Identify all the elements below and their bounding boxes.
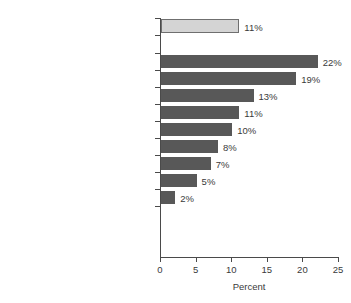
bar (161, 89, 254, 102)
x-axis-tick (231, 257, 232, 262)
y-axis-tick (155, 121, 161, 122)
y-axis-tick (155, 53, 161, 54)
bar (161, 72, 296, 85)
x-axis-tick (196, 257, 197, 262)
plot-area: All occupations11%Professional22%Associa… (0, 0, 351, 303)
bar-value-label: 5% (202, 175, 216, 186)
x-axis-tick (160, 257, 161, 262)
y-axis-tick (155, 138, 161, 139)
x-axis-tick-label: 15 (262, 264, 273, 275)
y-axis-tick (155, 155, 161, 156)
y-axis-tick (155, 104, 161, 105)
bar-value-label: 10% (237, 124, 256, 135)
y-axis-tick (155, 35, 161, 36)
bar (161, 106, 239, 119)
bar (161, 55, 318, 68)
bar (161, 140, 218, 153)
x-axis-title: Percent (233, 281, 266, 292)
bar-value-label: 19% (301, 73, 320, 84)
y-axis-tick (155, 18, 161, 19)
bar-chart: All occupations11%Professional22%Associa… (0, 0, 351, 303)
y-axis-tick (155, 206, 161, 207)
x-axis-tick (302, 257, 303, 262)
x-axis-tick-label: 10 (226, 264, 237, 275)
y-axis-tick (155, 87, 161, 88)
bar-value-label: 8% (223, 141, 237, 152)
bar (161, 123, 232, 136)
bar-value-label: 13% (259, 90, 278, 101)
bar (161, 174, 197, 187)
bar-value-label: 22% (323, 56, 342, 67)
x-axis-tick-label: 0 (157, 264, 162, 275)
bar (161, 157, 211, 170)
x-axis-tick (267, 257, 268, 262)
bar-value-label: 11% (244, 21, 262, 32)
bar-value-label: 11% (244, 107, 262, 118)
x-axis-tick-label: 25 (333, 264, 344, 275)
y-axis-tick (155, 70, 161, 71)
bar-value-label: 2% (180, 192, 194, 203)
x-axis-tick-label: 20 (297, 264, 308, 275)
bar (161, 19, 239, 33)
bar (161, 191, 175, 204)
y-axis-tick (155, 172, 161, 173)
x-axis-tick (338, 257, 339, 262)
x-axis-tick-label: 5 (193, 264, 198, 275)
bar-value-label: 7% (216, 158, 230, 169)
y-axis-tick (155, 189, 161, 190)
x-axis-line (160, 257, 338, 258)
